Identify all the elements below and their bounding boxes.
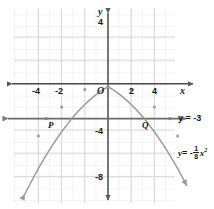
y-tick-label--8: -8 <box>95 172 103 182</box>
curve-equation-fraction: 18 <box>193 145 199 160</box>
point-q-label: Q <box>142 120 149 130</box>
curve-equation-operator: = - <box>182 148 193 158</box>
y-axis-label: y <box>98 6 102 17</box>
x-tick-label-4: 4 <box>152 86 157 96</box>
graph-figure: -4 -2 2 4 4 -4 -8 O x y P Q y = -3 y= -1… <box>0 0 214 209</box>
x-axis-label: x <box>180 85 185 96</box>
x-tick-label--4: -4 <box>32 86 40 96</box>
fraction-denominator: 8 <box>193 152 199 160</box>
origin-label: O <box>97 85 104 96</box>
x-tick-label--2: -2 <box>55 86 63 96</box>
curve-equation-exponent: 2 <box>204 147 207 153</box>
fraction-numerator: 1 <box>193 145 199 152</box>
y-tick-label-4: 4 <box>98 17 103 27</box>
coordinate-plane-svg <box>0 0 214 209</box>
point-p-label: P <box>48 120 54 130</box>
point-q-marker <box>168 117 171 120</box>
line-equation-label: y = -3 <box>178 113 201 123</box>
y-tick-label--4: -4 <box>95 126 103 136</box>
curve-equation-label: y= -18x2 <box>178 145 207 160</box>
x-tick-label-2: 2 <box>129 86 134 96</box>
